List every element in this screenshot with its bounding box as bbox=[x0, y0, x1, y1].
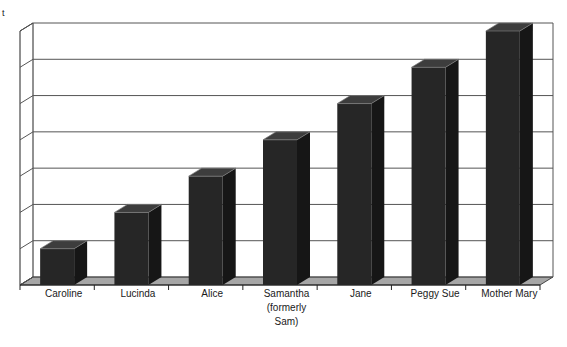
gridline-wall-connector bbox=[20, 168, 33, 176]
bar-front-face bbox=[412, 67, 446, 285]
bar-side-face bbox=[223, 168, 236, 285]
bar-side-face bbox=[371, 96, 384, 285]
gridline-wall-connector bbox=[20, 59, 33, 67]
category-label: Sam) bbox=[275, 316, 299, 327]
category-label: Mother Mary bbox=[481, 288, 537, 299]
category-label: (formerly bbox=[267, 302, 306, 313]
bar-side-face bbox=[297, 132, 310, 285]
bar-side-face bbox=[446, 59, 459, 285]
category-label: Lucinda bbox=[120, 288, 155, 299]
gridline-wall-connector bbox=[20, 96, 33, 104]
bar-alice bbox=[189, 168, 236, 285]
bar-lucinda bbox=[114, 204, 161, 285]
category-label: Samantha bbox=[264, 288, 310, 299]
chart-canvas: t CarolineLucindaAliceSamantha(formerlyS… bbox=[0, 0, 567, 347]
category-label: Peggy Sue bbox=[411, 288, 460, 299]
bar-peggy-sue bbox=[412, 59, 459, 285]
bar-chart-3d: CarolineLucindaAliceSamantha(formerlySam… bbox=[0, 0, 567, 347]
gridline-wall-connector bbox=[20, 132, 33, 140]
gridline-wall-connector bbox=[20, 204, 33, 212]
bar-front-face bbox=[263, 140, 297, 285]
bar-front-face bbox=[114, 212, 148, 285]
bar-samantha-formerly-sam- bbox=[263, 132, 310, 285]
bar-front-face bbox=[486, 31, 520, 285]
chart-left-wall bbox=[20, 23, 33, 285]
gridline-wall-connector bbox=[20, 241, 33, 249]
bar-side-face bbox=[148, 204, 161, 285]
gridline-wall-connector bbox=[20, 23, 33, 31]
bar-side-face bbox=[520, 23, 533, 285]
bar-front-face bbox=[40, 249, 74, 285]
bar-caroline bbox=[40, 241, 87, 285]
bar-front-face bbox=[337, 104, 371, 285]
bar-jane bbox=[337, 96, 384, 285]
category-label: Jane bbox=[350, 288, 372, 299]
category-label: Caroline bbox=[45, 288, 83, 299]
bar-mother-mary bbox=[486, 23, 533, 285]
bar-front-face bbox=[189, 176, 223, 285]
category-label: Alice bbox=[201, 288, 223, 299]
